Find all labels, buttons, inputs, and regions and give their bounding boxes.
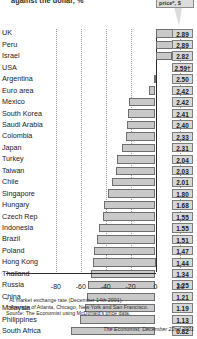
chart-row: Brazil1.51 <box>0 234 197 245</box>
price-value-box: 1.55 <box>172 212 193 221</box>
footnote-source: Source: The Economist using McDonald's p… <box>6 310 194 317</box>
price-value-box: 1.44 <box>172 258 193 267</box>
country-label: Argentina <box>2 74 33 83</box>
chart-row: Israel2.82 <box>0 51 197 62</box>
price-value-box: 1.80 <box>172 189 193 198</box>
country-label: Japan <box>2 143 22 152</box>
x-axis-line <box>6 273 156 274</box>
country-label: Colombia <box>2 131 32 140</box>
price-value-box: 2.89 <box>172 40 193 49</box>
country-label: Russia <box>2 280 24 289</box>
value-bar <box>128 109 155 117</box>
value-bar <box>104 201 155 209</box>
chart-row: Turkey2.04 <box>0 154 197 165</box>
country-label: Mexico <box>2 97 25 106</box>
price-value-box: 2.01 <box>172 177 193 186</box>
chart-row: Hong Kong1.44 <box>0 257 197 268</box>
price-value-box: 2.42 <box>172 86 193 95</box>
value-bar <box>93 258 155 266</box>
value-bar <box>127 121 156 129</box>
price-value-box: 2.50 <box>172 74 193 83</box>
country-label: Turkey <box>2 154 24 163</box>
chart-row: Saudi Arabia2.40 <box>0 120 197 131</box>
country-label: Chile <box>2 177 18 186</box>
footnote-us-average: † Average of Atlanta, Chicago, New York … <box>6 304 194 311</box>
country-label: Singapore <box>2 189 35 198</box>
country-label: Hong Kong <box>2 257 38 266</box>
price-value-box: 2.33 <box>172 132 193 141</box>
price-value-box: 1.34 <box>172 269 193 278</box>
callout-tail <box>174 7 182 26</box>
value-bar <box>117 155 156 163</box>
value-bar <box>99 224 155 232</box>
price-value-box: 2.04 <box>172 155 193 164</box>
footnote-exchange-rate: * At market exchange rate (December 14th… <box>6 297 194 304</box>
big-mac-price-callout: Big Mac price*, $ <box>156 0 194 8</box>
value-bar <box>149 86 155 94</box>
value-bar <box>156 52 172 60</box>
country-label: Hungary <box>2 200 29 209</box>
chart-row: Czech Rep1.55 <box>0 211 197 222</box>
value-bar <box>103 212 155 220</box>
x-tick-label: -20 <box>121 283 141 290</box>
country-label: South Korea <box>2 109 42 118</box>
price-value-box: 1.51 <box>172 235 193 244</box>
chart-row: Colombia2.33 <box>0 131 197 142</box>
price-value-box: 2.42 <box>172 97 193 106</box>
country-label: Indonesia <box>2 223 33 232</box>
price-value-box: 1.68 <box>172 200 193 209</box>
big-mac-index-chart: against the dollar, % Big Mac price*, $ … <box>0 0 197 339</box>
chart-row: UK2.89 <box>0 28 197 39</box>
chart-row: Hungary1.68 <box>0 200 197 211</box>
x-tick-label: -60 <box>71 283 91 290</box>
chart-row: Poland1.47 <box>0 246 197 257</box>
x-tick-label: -80 <box>46 283 66 290</box>
callout-label: Big Mac price*, $ <box>159 0 195 7</box>
chart-row: Mexico2.42 <box>0 97 197 108</box>
price-value-box: 2.41 <box>172 109 193 118</box>
value-bar <box>116 167 156 175</box>
country-label: Taiwan <box>2 166 24 175</box>
price-value-box: 2.89 <box>172 29 193 38</box>
chart-title: against the dollar, % <box>11 0 84 5</box>
x-tick-label: -40 <box>96 283 116 290</box>
country-label: USA <box>2 63 17 72</box>
x-tick-label: 20 <box>170 283 190 290</box>
value-bar <box>122 144 156 152</box>
chart-row: Japan2.31 <box>0 143 197 154</box>
country-label: Brazil <box>2 234 20 243</box>
chart-row: Thailand1.34 <box>0 268 197 279</box>
chart-row: Taiwan2.03 <box>0 165 197 176</box>
country-label: Israel <box>2 51 20 60</box>
price-value-box: 2.59† <box>172 63 193 72</box>
value-bar <box>94 247 155 255</box>
price-value-box: 2.31 <box>172 143 193 152</box>
price-value-box: 1.55 <box>172 223 193 232</box>
x-tick-label: 0 <box>146 283 166 290</box>
footnotes: * At market exchange rate (December 14th… <box>6 297 194 317</box>
chart-row: Euro area2.42 <box>0 85 197 96</box>
country-label: Euro area <box>2 86 34 95</box>
value-bar <box>154 75 156 83</box>
chart-row: South Korea2.41 <box>0 108 197 119</box>
plot-area: UK2.89Peru2.89Israel2.82USA2.59†Argentin… <box>0 29 197 274</box>
country-label: UK <box>2 28 12 37</box>
chart-row: Chile2.01 <box>0 177 197 188</box>
country-label: Poland <box>2 246 24 255</box>
value-bar <box>97 235 156 243</box>
value-bar <box>126 132 156 140</box>
chart-row: USA2.59† <box>0 62 197 73</box>
value-bar <box>112 178 156 186</box>
country-label: South Africa <box>2 326 41 335</box>
value-bar <box>129 98 155 106</box>
chart-row: Indonesia1.55 <box>0 223 197 234</box>
chart-row: Peru2.89 <box>0 39 197 50</box>
country-label: Czech Rep <box>2 212 38 221</box>
publication-credit: The Economist, December 22nd 2001 <box>103 326 194 332</box>
country-label: Peru <box>2 40 17 49</box>
price-value-box: 1.47 <box>172 246 193 255</box>
price-value-box: 2.82 <box>172 51 193 60</box>
value-bar <box>108 189 155 197</box>
chart-row: Argentina2.50 <box>0 74 197 85</box>
chart-row: Singapore1.80 <box>0 188 197 199</box>
